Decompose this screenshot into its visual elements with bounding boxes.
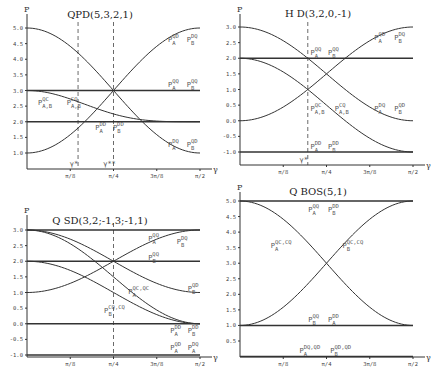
y-tick-label: 0.5: [226, 102, 236, 108]
series-label: PQQB: [328, 46, 339, 59]
series-label: PCQA,B: [67, 96, 82, 109]
series-label: PDQB: [187, 33, 198, 46]
x-tick-label: π/8: [278, 169, 288, 175]
y-axis-label: P: [24, 206, 30, 215]
series-label: PQQB: [308, 313, 319, 326]
y-tick-label: 2.0: [13, 258, 23, 264]
x-tick-label: π/2: [195, 361, 205, 367]
x-tick-label: π/4: [109, 173, 120, 179]
series-label: PQDB: [188, 282, 199, 295]
series-label: PDQA: [188, 341, 199, 354]
chart-title: Q SD(3,2;-1,3;-1,1): [52, 215, 147, 226]
series-label: PQDB: [394, 102, 405, 115]
series-line: [240, 27, 413, 121]
series-label: PQC,QCA: [128, 285, 149, 298]
x-tick-label: π/8: [65, 361, 75, 367]
series-label: PDDA: [310, 140, 321, 153]
gamma-marker-label: γ*: [70, 160, 78, 168]
chart-title: H D(3,2,0,-1): [285, 8, 351, 19]
series-label: PQCA,B: [310, 102, 325, 115]
y-axis-label: P: [237, 5, 243, 14]
y-tick-label: 4.0: [13, 56, 23, 62]
y-tick-label: 2.5: [13, 103, 23, 109]
y-tick-label: 4.5: [226, 214, 236, 220]
series-label: PDQ,QDA: [299, 344, 320, 357]
y-axis-label: P: [24, 5, 30, 14]
y-tick-label: 3.5: [13, 72, 23, 78]
x-axis-label: γ: [213, 353, 218, 362]
series-label: PQDA: [170, 341, 181, 354]
y-tick-label: 4.0: [226, 229, 236, 235]
y-tick-label: -1.0: [223, 149, 236, 155]
x-tick-label: π/4: [322, 361, 333, 367]
y-tick-label: 2.5: [226, 276, 236, 282]
chart-title: QPD(5,3,2,1): [67, 9, 133, 20]
series-label: PDDA: [170, 324, 181, 337]
y-tick-label: 3.0: [226, 260, 236, 266]
series-label: PDDB: [328, 140, 339, 153]
y-tick-label: 0.0: [13, 321, 23, 327]
series-line: [240, 201, 413, 325]
x-tick-label: 3π/8: [150, 173, 163, 179]
series-label: PQQA: [308, 203, 319, 216]
series-label: PQC,CQB: [342, 239, 363, 252]
x-tick-label: π/2: [195, 173, 205, 179]
gamma-marker-label: γ**: [103, 160, 116, 168]
y-tick-label: 2.0: [13, 119, 23, 125]
series-label: PQD,QDB: [330, 344, 351, 357]
series-label: PQQA: [310, 46, 321, 59]
chart-hd: H D(3,2,0,-1)Pγ-1.0-0.50.00.51.01.52.02.…: [223, 5, 431, 175]
x-tick-label: π/8: [65, 173, 75, 179]
y-tick-label: -0.5: [10, 336, 23, 342]
series-label: PDDB: [188, 324, 199, 337]
chart-title: Q BOS(5,1): [289, 186, 347, 197]
series-label: PDDA: [328, 313, 339, 326]
series-line: [240, 58, 413, 152]
y-tick-label: 3.5: [226, 245, 236, 251]
gamma-marker-label: γ*: [300, 156, 308, 164]
x-tick-label: 3π/8: [150, 361, 163, 367]
figure: QPD(5,3,2,1)Pγ1.01.52.02.53.03.54.04.55.…: [0, 0, 442, 381]
chart-qbos: Q BOS(5,1)Pγ0.51.01.52.02.53.03.54.04.55…: [226, 183, 431, 367]
y-tick-label: 4.5: [13, 41, 23, 47]
x-tick-label: π/2: [408, 361, 418, 367]
chart-qpd: QPD(5,3,2,1)Pγ1.01.52.02.53.03.54.04.55.…: [13, 5, 218, 179]
y-tick-label: 3.0: [13, 227, 23, 233]
y-tick-label: 1.5: [226, 307, 236, 313]
x-tick-label: π/8: [278, 361, 288, 367]
series-label: PQDA: [374, 31, 385, 44]
chart-qsd: Q SD(3,2;-1,3;-1,1)Pγ-1.0-0.50.00.51.01.…: [10, 206, 218, 367]
series-label: PQC,CQA: [271, 239, 292, 252]
x-axis-label: γ: [426, 161, 431, 170]
series-label: PQQA: [168, 78, 179, 91]
series-label: PQDB: [187, 138, 198, 151]
series-label: PDQA: [168, 138, 179, 151]
y-axis-label: P: [237, 183, 243, 192]
y-tick-label: 3.0: [13, 88, 23, 94]
series-label: PCQ,CQB: [104, 304, 125, 317]
y-tick-label: 0.5: [13, 305, 23, 311]
y-tick-label: 1.0: [226, 87, 236, 93]
y-tick-label: 2.0: [226, 55, 236, 61]
series-label: PQDA: [168, 33, 179, 46]
y-tick-label: 2.5: [226, 40, 236, 46]
x-tick-label: π/2: [408, 169, 418, 175]
y-tick-label: 1.0: [226, 322, 236, 328]
y-tick-label: -0.5: [223, 133, 236, 139]
y-tick-label: 1.0: [13, 150, 23, 156]
series-label: PDQA: [374, 102, 385, 115]
series-label: PQCA,B: [38, 96, 53, 109]
y-tick-label: 1.5: [13, 134, 23, 140]
y-tick-label: 5.0: [13, 25, 23, 31]
x-tick-label: π/4: [109, 361, 120, 367]
y-tick-label: 2.5: [13, 243, 23, 249]
y-tick-label: 1.5: [13, 274, 23, 280]
y-tick-label: 5.0: [226, 198, 236, 204]
series-label: PDDB: [328, 203, 339, 216]
x-axis-label: γ: [426, 353, 431, 362]
series-label: PDQB: [394, 31, 405, 44]
x-tick-label: 3π/8: [363, 361, 376, 367]
y-tick-label: 2.0: [226, 291, 236, 297]
y-tick-label: -1.0: [10, 352, 23, 358]
series-label: PQQB: [187, 78, 198, 91]
